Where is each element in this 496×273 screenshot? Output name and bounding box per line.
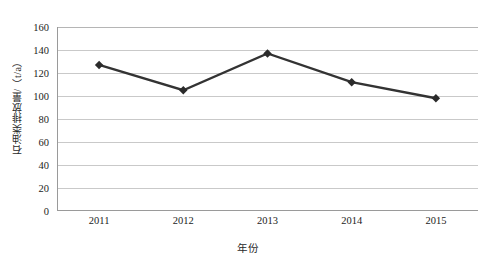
x-tick-label: 2014 (341, 215, 362, 226)
y-tick-label: 120 (33, 68, 49, 79)
y-tick-label: 60 (39, 137, 50, 148)
y-tick-label: 40 (39, 160, 50, 171)
data-point-marker (263, 49, 271, 57)
y-tick-label: 160 (33, 22, 49, 33)
series-line (99, 53, 436, 98)
x-tick-label: 2015 (425, 215, 446, 226)
x-tick-label: 2013 (257, 215, 278, 226)
data-point-marker (179, 86, 187, 94)
y-tick-label: 140 (33, 45, 49, 56)
data-point-marker (348, 78, 356, 86)
x-tick-label: 2011 (89, 215, 110, 226)
y-tick-label: 20 (39, 183, 50, 194)
x-tick-label: 2012 (173, 215, 194, 226)
y-tick-label: 80 (39, 114, 50, 125)
x-axis-tick-labels: 20112012201320142015 (0, 213, 496, 237)
x-axis-title: 年份 (0, 240, 496, 255)
data-series-layer (57, 27, 478, 211)
series-markers (95, 49, 440, 102)
line-chart: 石油类排放量/（t/a） 160140120100806040200 20112… (0, 0, 496, 273)
y-tick-label: 100 (33, 91, 49, 102)
data-point-marker (95, 61, 103, 69)
data-point-marker (432, 94, 440, 102)
